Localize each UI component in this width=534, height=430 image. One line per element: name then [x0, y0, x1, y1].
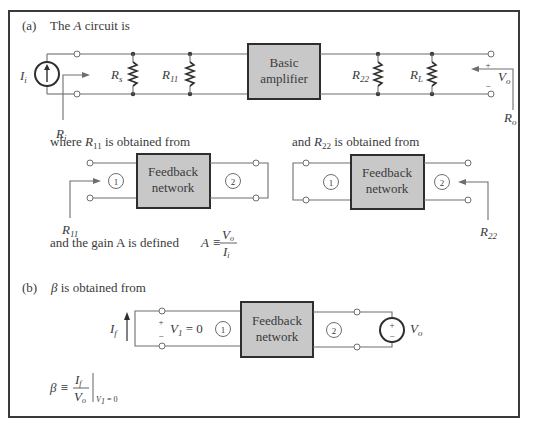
source-label: Ii [19, 68, 27, 85]
fb-label-line2: network [256, 329, 299, 344]
vo-label: Vo [498, 69, 511, 86]
short-circuit [259, 163, 268, 198]
svg-text:1: 1 [114, 177, 119, 187]
fb-label-line1: Feedback [148, 164, 198, 179]
short-circuit [293, 163, 304, 200]
svg-text:β ≡: β ≡ [49, 380, 69, 395]
gain-definition-text: and the gain A is defined [50, 235, 179, 250]
resistor-r22 [374, 62, 382, 86]
vo-source-label: Vo [410, 321, 423, 338]
svg-text:2: 2 [332, 326, 337, 336]
resistor-rs [129, 62, 137, 86]
beta-formula: β ≡ If Vo V1 = 0 [49, 372, 117, 406]
amp-label-line2: amplifier [260, 71, 308, 86]
v1-label: V1 = 0 [170, 321, 203, 338]
ro-label: Ro [503, 110, 517, 127]
vo-minus: − [485, 81, 490, 91]
svg-text:A ≡: A ≡ [200, 235, 221, 250]
v1-minus: − [158, 331, 163, 341]
v1-plus: + [158, 317, 163, 327]
rl-label: RL [409, 67, 423, 84]
part-b-label: (b) [22, 280, 37, 295]
svg-text:2: 2 [440, 178, 445, 188]
a-circuit: Ii Ri Rs R11 Basic amplifier [19, 44, 517, 143]
fb-label-line2: network [366, 181, 409, 196]
svg-text:V1 = 0: V1 = 0 [96, 395, 117, 406]
svg-text:Ii: Ii [222, 244, 230, 260]
r11-subcircuit: Feedback network 1 2 R11 [61, 154, 268, 239]
fb-label-line1: Feedback [362, 165, 412, 180]
if-label: If [109, 321, 118, 338]
r22-label: R22 [351, 67, 369, 84]
part-a-label: (a) [22, 18, 36, 33]
output-terminal [488, 51, 494, 57]
gain-formula: A ≡ Vo Ii [200, 227, 237, 260]
r22-subcircuit: Feedback network 1 2 R22 [293, 155, 497, 241]
r11-label: R11 [161, 67, 178, 84]
svg-text:2: 2 [231, 177, 236, 187]
part-a-intro: The A circuit is [50, 18, 130, 33]
svg-text:If: If [74, 372, 83, 388]
svg-text:1: 1 [329, 178, 334, 188]
part-b-intro: β is obtained from [50, 280, 146, 295]
r11-derivation-text: where R11 is obtained from [50, 134, 190, 151]
short-circuit [135, 311, 159, 346]
r22-derivation-text: and R22 is obtained from [292, 134, 419, 151]
fb-label-line1: Feedback [252, 313, 302, 328]
resistor-rl [428, 62, 436, 86]
rs-label: Rs [110, 67, 123, 84]
svg-text:1: 1 [221, 325, 226, 335]
output-terminal [488, 91, 494, 97]
svg-text:−: − [389, 331, 394, 341]
input-terminal [74, 51, 80, 57]
feedback-circuit-diagram: (a) The A circuit is Ii Ri Rs R [0, 0, 534, 430]
input-terminal [74, 91, 80, 97]
svg-text:Vo: Vo [74, 389, 86, 405]
fb-label-line2: network [152, 180, 195, 195]
r22-arrow-label: R22 [479, 224, 497, 241]
svg-text:+: + [389, 320, 394, 330]
svg-text:Vo: Vo [222, 227, 234, 243]
amp-label-line1: Basic [270, 55, 299, 70]
resistor-r11 [186, 62, 194, 86]
beta-circuit: If + − V1 = 0 1 Feedback network 2 + − V… [109, 302, 423, 357]
